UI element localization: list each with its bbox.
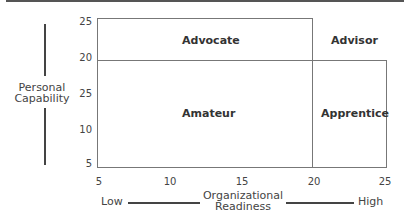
y-axis-title: Personal Capability [2,82,82,104]
y-axis-line-lower [44,108,46,165]
x-axis-line-left [128,202,200,204]
x-tick-0: 5 [89,176,109,187]
left-border [97,18,98,168]
x-tick-1: 10 [160,176,180,187]
x-tick-2: 15 [232,176,252,187]
x-tick-4: 25 [375,176,395,187]
y-tick-2: 25 [72,88,92,99]
top-border-advocate [97,18,312,19]
x-axis-low-label: Low [101,196,123,207]
y-axis-title-line2: Capability [2,93,82,104]
top-border [6,0,404,2]
midline-20 [97,60,387,61]
bottom-border [97,167,387,168]
x-tick-3: 20 [304,176,324,187]
quadrant-advisor: Advisor [331,34,378,47]
x-axis-title-line2: Readiness [198,201,288,212]
y-tick-4: 5 [72,158,92,169]
x-axis-title: Organizational Readiness [198,190,288,212]
y-axis-line-upper [44,24,46,76]
y-tick-1: 20 [72,52,92,63]
quadrant-amateur: Amateur [182,107,235,120]
quadrant-advocate: Advocate [182,34,240,47]
y-tick-0: 25 [72,16,92,27]
vertical-divider-20 [312,18,313,168]
y-tick-3: 10 [72,124,92,135]
x-axis-line-right [286,202,354,204]
x-axis-high-label: High [358,196,383,207]
quadrant-apprentice: Apprentice [321,107,389,120]
